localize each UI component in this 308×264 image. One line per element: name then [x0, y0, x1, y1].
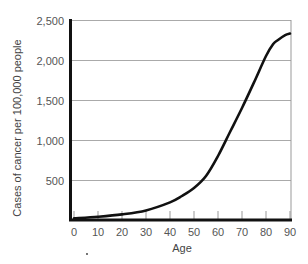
x-axis-tick-labels: 0102030405060708090: [71, 226, 296, 238]
x-tick-label: 0: [71, 226, 77, 238]
cancer-incidence-curve: [74, 34, 290, 219]
x-tick-label: 10: [92, 226, 104, 238]
stray-dot: [86, 253, 88, 255]
y-tick-label: 2,000: [36, 55, 64, 67]
y-axis-title: Cases of cancer per 100,000 people: [11, 39, 23, 216]
x-tick-label: 80: [260, 226, 272, 238]
x-tick-label: 90: [284, 226, 296, 238]
x-tick-label: 20: [116, 226, 128, 238]
gridlines: [70, 21, 291, 181]
x-tick-label: 60: [212, 226, 224, 238]
line-chart: 5001,0001,5002,0002,500 0102030405060708…: [0, 0, 308, 264]
x-tick-label: 50: [188, 226, 200, 238]
y-tick-label: 500: [46, 175, 64, 187]
x-axis-title: Age: [172, 242, 192, 254]
y-axis-tick-labels: 5001,0001,5002,0002,500: [36, 15, 64, 187]
x-tick-label: 40: [164, 226, 176, 238]
y-tick-label: 1,500: [36, 95, 64, 107]
x-tick-label: 70: [236, 226, 248, 238]
y-tick-label: 1,000: [36, 135, 64, 147]
x-tick-label: 30: [140, 226, 152, 238]
y-tick-label: 2,500: [36, 15, 64, 27]
